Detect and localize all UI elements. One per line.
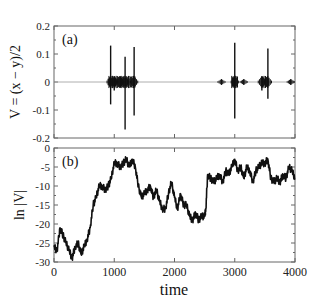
panel-b: (b) ln |V| -30-25-20-15-10-50 0100020003… (12, 142, 307, 298)
panel-b-label: (b) (62, 154, 79, 170)
panel-a-label: (a) (62, 32, 78, 48)
panel-b-ytick-labels: -30-25-20-15-10-50 (35, 142, 50, 268)
panel-a: (a) V = (x − y)/2 -0.2-0.100.10.2 (8, 20, 295, 144)
x-tick-labels: 01000200030004000 (51, 265, 307, 279)
y-tick-label: 0.1 (36, 48, 50, 60)
x-tick-label: 0 (51, 265, 57, 279)
x-tick-label: 4000 (283, 265, 307, 279)
panel-a-ytick-labels: -0.2-0.100.10.2 (33, 20, 51, 144)
y-tick-label: 0 (45, 76, 51, 88)
x-tick-label: 1000 (102, 265, 126, 279)
panel-b-ylabel: ln |V| (12, 190, 27, 220)
panel-b-series-line (54, 157, 295, 260)
figure: (a) V = (x − y)/2 -0.2-0.100.10.2 (b) ln… (0, 0, 318, 305)
y-tick-label: -20 (35, 218, 50, 230)
y-tick-label: 0.2 (36, 20, 50, 32)
y-tick-label: -0.1 (33, 104, 50, 116)
y-tick-label: -15 (35, 199, 50, 211)
x-axis-title: time (160, 281, 188, 298)
y-tick-label: -5 (41, 161, 51, 173)
panel-a-series (107, 43, 294, 130)
x-tick-label: 2000 (163, 265, 187, 279)
y-tick-label: -30 (35, 256, 50, 268)
panel-a-ylabel: V = (x − y)/2 (8, 45, 24, 119)
y-tick-label: -25 (35, 237, 50, 249)
x-tick-label: 3000 (223, 265, 247, 279)
y-tick-label: 0 (45, 142, 51, 154)
y-tick-label: -10 (35, 180, 50, 192)
